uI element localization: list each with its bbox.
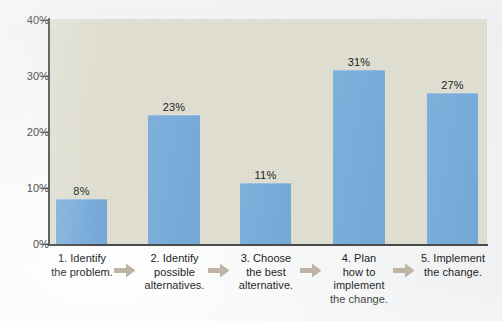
category-label-3-line-1: 3. Choose xyxy=(222,252,310,266)
category-label-3-line-2: the best xyxy=(222,266,310,280)
bar-step-4 xyxy=(333,70,385,244)
category-label-5-line-1: 5. Implement xyxy=(406,252,500,266)
y-tick-label-20: 20% xyxy=(11,126,49,138)
y-tick-label-0: 0% xyxy=(11,238,49,250)
category-label-4-line-3: implement xyxy=(316,279,402,293)
bar-step-5 xyxy=(427,93,478,244)
y-tick-label-10: 10% xyxy=(11,182,49,194)
bar-value-label-2: 23% xyxy=(148,101,200,113)
category-label-4-line-4: the change. xyxy=(316,293,402,307)
category-label-1-line-1: 1. Identify xyxy=(38,252,126,266)
category-label-1-line-2: the problem. xyxy=(38,266,126,280)
process-arrow-icon-1 xyxy=(114,263,136,278)
category-label-5: 5. Implement the change. xyxy=(406,252,500,279)
bar-value-label-4: 31% xyxy=(333,56,385,68)
bar-value-label-5: 27% xyxy=(427,79,478,91)
y-tick-label-40: 40% xyxy=(11,14,49,26)
process-arrow-icon-4 xyxy=(393,263,415,278)
bar-value-label-1: 8% xyxy=(56,185,107,197)
category-label-3: 3. Choose the best alternative. xyxy=(222,252,310,293)
process-arrow-icon-3 xyxy=(300,263,322,278)
category-label-4-line-2: how to xyxy=(316,266,402,280)
y-tick-label-30: 30% xyxy=(11,70,49,82)
category-label-3-line-3: alternative. xyxy=(222,279,310,293)
category-label-1: 1. Identify the problem. xyxy=(38,252,126,279)
bar-value-label-3: 11% xyxy=(240,169,291,181)
category-label-5-line-2: the change. xyxy=(406,266,500,280)
category-label-4-line-1: 4. Plan xyxy=(316,252,402,266)
category-label-4: 4. Plan how to implement the change. xyxy=(316,252,402,306)
bar-step-3 xyxy=(240,183,291,244)
process-arrow-icon-2 xyxy=(208,263,230,278)
bar-step-2 xyxy=(148,115,200,244)
x-axis-line xyxy=(48,244,488,246)
bar-step-1 xyxy=(56,199,107,244)
category-label-2-line-3: alternatives. xyxy=(128,279,221,293)
bar-chart-figure: 40% 30% 20% 10% 0% 8% 23% 11% 31% 27% 1.… xyxy=(0,0,502,321)
